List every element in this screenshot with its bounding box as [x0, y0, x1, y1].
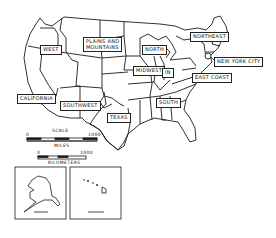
- label-plains-and-mountains: PLAINS AND MOUNTAINS: [83, 37, 122, 52]
- scale-miles-end: 1000: [88, 132, 101, 137]
- scale-title: SCALE: [52, 128, 68, 133]
- hawaii-inset: [70, 167, 121, 219]
- label-texas: TEXAS: [107, 113, 131, 123]
- label-plains-line2: MOUNTAINS: [86, 45, 119, 51]
- alaska-inset: [15, 167, 66, 219]
- scale-miles-label: MILES: [54, 143, 69, 148]
- scale-km-end: 1000: [80, 150, 93, 155]
- scale-km-start: 0: [37, 150, 40, 155]
- label-north: NORTH: [142, 45, 167, 55]
- label-west: WEST: [40, 45, 62, 55]
- label-northeast: NORTHEAST: [190, 32, 229, 42]
- label-midwest: MIDWEST: [133, 66, 165, 76]
- label-south: SOUTH: [156, 98, 181, 108]
- scale-miles-start: 0: [26, 132, 29, 137]
- label-new-york-city: NEW YORK CITY: [214, 57, 263, 67]
- scale-km-label: KILOMETERS: [48, 160, 80, 165]
- us-regions-map: [0, 0, 276, 238]
- label-southwest: SOUTHWEST: [60, 101, 101, 111]
- label-california: CALIFORNIA: [17, 94, 56, 104]
- label-in: IN: [162, 68, 174, 78]
- label-east-coast: EAST COAST: [192, 73, 232, 83]
